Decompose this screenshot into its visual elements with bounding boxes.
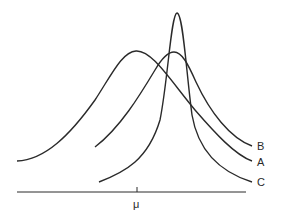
distribution-diagram: μ B A C: [0, 0, 285, 215]
mu-label: μ: [133, 198, 139, 210]
curve-b-label: B: [257, 140, 264, 152]
curve-b: [95, 52, 252, 147]
curve-c: [99, 13, 252, 182]
curve-a: [17, 51, 252, 161]
curve-a-label: A: [257, 156, 265, 168]
curve-c-label: C: [257, 176, 265, 188]
